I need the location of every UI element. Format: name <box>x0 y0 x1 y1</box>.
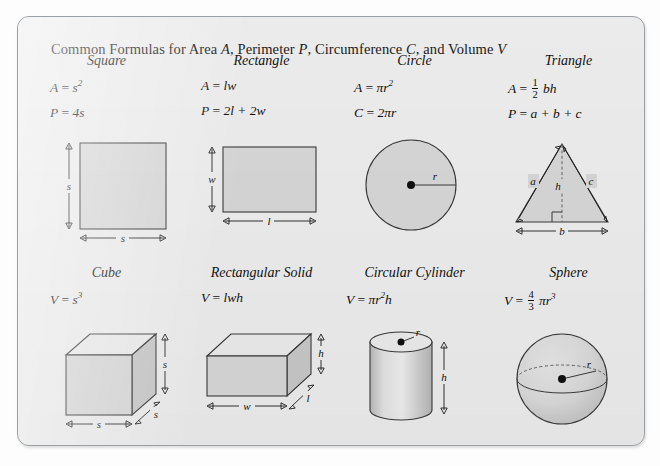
rectangle-diagram: w l <box>183 133 340 243</box>
triangle-label-side-c: c <box>589 175 594 187</box>
circular-cylinder-volume-formula: V = πr2h <box>346 290 493 308</box>
rectangle-label-width: w <box>208 173 216 185</box>
circular-cylinder-diagram: r h <box>336 326 493 436</box>
cube-heading: Cube <box>28 265 185 281</box>
cube-diagram: s s s <box>28 326 185 436</box>
formula-card: Common Formulas for Area A, Perimeter P,… <box>17 16 645 446</box>
rectangular-solid-label-width: w <box>243 400 251 412</box>
cylinder-label-radius: r <box>416 326 421 338</box>
triangle-area-fraction: 1 2 <box>532 77 537 100</box>
triangle-diagram: a c h <box>490 134 647 244</box>
rectangular-solid-label-height: h <box>318 347 324 359</box>
rectangular-solid-volume-formula: V = lwh <box>201 290 340 306</box>
cube-volume-formula: V = s3 <box>50 290 185 308</box>
rectangular-solid-diagram: h l w <box>183 324 340 434</box>
figure-rectangle: Rectangle A = lw P = 2l + 2w w <box>183 53 340 243</box>
rectangular-solid-label-length: l <box>306 392 309 404</box>
sphere-volume-fraction: 4 3 <box>528 289 533 312</box>
square-area-formula: A = s2 <box>50 78 185 96</box>
rectangular-solid-heading: Rectangular Solid <box>183 265 340 281</box>
circle-label-radius: r <box>433 170 438 182</box>
cube-label-depth: s <box>154 408 158 420</box>
figure-rectangular-solid: Rectangular Solid V = lwh <box>183 265 340 434</box>
sphere-diagram: r <box>490 327 647 437</box>
figure-circle: Circle A = πr2 C = 2πr r <box>336 53 493 245</box>
triangle-heading: Triangle <box>490 53 647 69</box>
figure-square: Square A = s2 P = 4s s <box>28 53 185 245</box>
circle-circumference-formula: C = 2πr <box>354 105 493 121</box>
square-label-side-left: s <box>67 180 71 192</box>
cube-label-width: s <box>97 418 101 430</box>
rectangle-heading: Rectangle <box>183 53 340 69</box>
square-label-side-bottom: s <box>121 232 125 244</box>
triangle-perimeter-formula: P = a + b + c <box>508 106 647 122</box>
sphere-label-radius: r <box>587 358 592 370</box>
square-perimeter-formula: P = 4s <box>50 105 185 121</box>
square-diagram: s s <box>28 135 185 245</box>
circular-cylinder-heading: Circular Cylinder <box>336 265 493 281</box>
circle-diagram: r <box>336 135 493 245</box>
square-heading: Square <box>28 53 185 69</box>
circle-heading: Circle <box>336 53 493 69</box>
triangle-area-formula: A = 1 2 bh <box>508 78 647 101</box>
triangle-label-side-a: a <box>530 175 536 187</box>
figure-triangle: Triangle A = 1 2 bh P = a + b + c <box>490 53 647 244</box>
rectangle-area-formula: A = lw <box>201 78 340 94</box>
figure-circular-cylinder: Circular Cylinder V = πr2h <box>336 265 493 436</box>
cylinder-label-height: h <box>441 371 447 383</box>
triangle-label-base: b <box>559 225 565 237</box>
triangle-label-height: h <box>555 180 561 192</box>
figure-sphere: Sphere V = 4 3 πr3 <box>490 265 647 437</box>
sphere-heading: Sphere <box>490 265 647 281</box>
sphere-volume-formula: V = 4 3 πr3 <box>504 290 647 313</box>
formula-reference-page: Common Formulas for Area A, Perimeter P,… <box>0 0 660 466</box>
circle-area-formula: A = πr2 <box>354 78 493 96</box>
rectangle-perimeter-formula: P = 2l + 2w <box>201 103 340 119</box>
figure-cube: Cube V = s3 s <box>28 265 185 436</box>
cube-label-height: s <box>163 358 167 370</box>
rectangle-label-length: l <box>267 215 270 227</box>
